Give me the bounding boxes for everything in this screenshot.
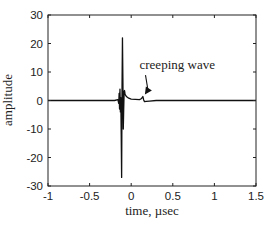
annotation-arrow-head-icon [145,87,152,95]
x-tick-label: 1 [211,190,217,202]
annotation-text: creeping wave [140,57,216,72]
x-tick-label: 0.5 [165,190,181,202]
y-tick-label: 10 [30,66,43,78]
y-axis-label: amplitude [0,74,15,126]
y-tick-label: 20 [30,38,43,50]
chart: -1-0.500.511.5 -30-20-100102030 time, µs… [0,0,279,227]
annotations: creeping wave [140,57,216,94]
y-tick-label: -30 [26,180,43,192]
x-tick-label: 0 [128,190,134,202]
x-axis-label: time, µsec [125,203,179,218]
y-tick-label: 0 [37,95,43,107]
y-tick-label: -20 [26,152,43,164]
x-tick-label: -1 [43,190,53,202]
y-tick-label: 30 [30,9,43,21]
x-tick-label: 1.5 [248,190,264,202]
x-axis-ticks: -1-0.500.511.5 [43,15,264,202]
x-tick-label: -0.5 [80,190,100,202]
y-tick-label: -10 [26,123,43,135]
